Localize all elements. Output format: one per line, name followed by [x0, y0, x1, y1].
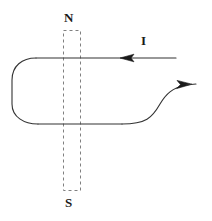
current-label: I	[141, 34, 146, 47]
diagram-canvas: N S I	[0, 0, 212, 221]
wire-left-loop	[12, 58, 38, 124]
north-pole-label: N	[64, 11, 73, 24]
diagram-svg	[0, 0, 212, 221]
wire-exit-curve	[122, 85, 186, 124]
south-pole-label: S	[65, 196, 72, 209]
bar-magnet-outline	[64, 31, 81, 191]
